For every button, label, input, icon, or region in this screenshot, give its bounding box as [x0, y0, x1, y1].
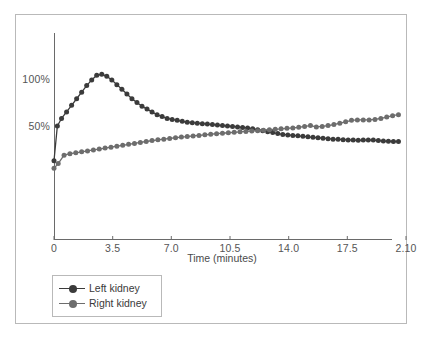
x-tick-label: 14.0: [278, 242, 299, 254]
y-tick-label-50: 50%: [18, 120, 50, 132]
x-tick-label: 17.5: [337, 242, 358, 254]
x-tick-label: 3.5: [105, 242, 120, 254]
x-tick-label: 7.0: [164, 242, 179, 254]
legend-label-left-kidney: Left kidney: [89, 283, 140, 294]
legend-label-right-kidney: Right kidney: [89, 298, 147, 309]
renogram-figure: 100% 50% 03.57.010.514.017.52.10 Time (m…: [0, 0, 425, 345]
legend-item-right-kidney[interactable]: Right kidney: [59, 296, 155, 311]
x-tick-label: 0: [51, 242, 57, 254]
x-tick-label: 2.10: [395, 242, 416, 254]
legend-marker-icon-left-kidney: [59, 283, 85, 294]
legend-item-left-kidney[interactable]: Left kidney: [59, 281, 155, 296]
chart-legend[interactable]: Left kidney Right kidney: [52, 275, 162, 317]
legend-marker-icon-right-kidney: [59, 298, 85, 309]
x-axis-title: Time (minutes): [187, 252, 257, 264]
y-tick-label-100: 100%: [18, 73, 50, 85]
